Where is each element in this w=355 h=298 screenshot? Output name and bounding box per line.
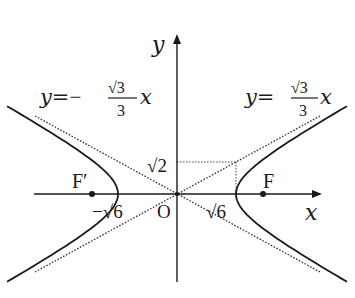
focus-right-label: F <box>263 170 274 192</box>
origin-label: O <box>157 201 171 222</box>
focus-left-label: F′ <box>72 170 88 192</box>
eq-right-denominator: 3 <box>299 102 307 119</box>
eq-right-var: x <box>320 85 332 109</box>
eq-left-lhs: y=− <box>39 85 81 109</box>
tick-label-b: √2 <box>147 155 167 176</box>
tick-label-pos-vertex: √6 <box>206 201 226 222</box>
eq-right-numerator: √3 <box>291 79 308 96</box>
tick-label-neg-vertex: −√6 <box>92 201 123 222</box>
eq-left-numerator: √3 <box>108 79 125 96</box>
eq-right-lhs: y= <box>244 85 274 109</box>
focus-left-point <box>89 191 95 197</box>
asymptote-equation-right: y= √3 3 x <box>244 79 332 119</box>
eq-left-denominator: 3 <box>117 102 125 119</box>
y-axis-label: y <box>151 32 165 57</box>
eq-left-var: x <box>140 85 152 109</box>
hyperbola-diagram: y x O F′ F √2 −√6 √6 y=− √3 3 x y= √3 3 … <box>0 0 355 298</box>
origin-point <box>175 192 179 196</box>
x-axis-label: x <box>305 200 318 225</box>
asymptote-equation-left: y=− √3 3 x <box>39 79 152 119</box>
